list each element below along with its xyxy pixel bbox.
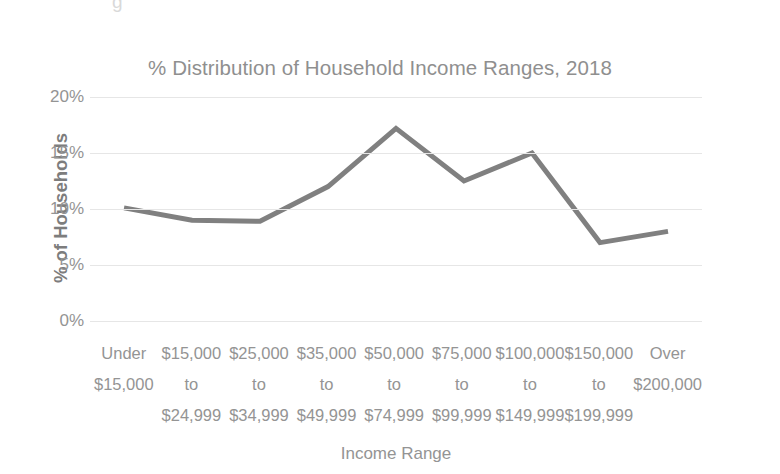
x-axis-tick-label-line: $75,000	[428, 338, 496, 369]
x-axis-title: Income Range	[90, 444, 702, 464]
x-axis-tick-label-line: to	[428, 369, 496, 400]
x-axis-tick-label-line: $149,999	[496, 400, 565, 431]
x-axis-tick-label-line: $34,999	[225, 400, 293, 431]
x-axis-tick-label: $50,000to$74,999	[360, 338, 428, 442]
x-axis-tick-label-line: $100,000	[496, 338, 565, 369]
y-axis-tick-label: 0%	[30, 311, 84, 331]
x-axis-tick-label-line: $150,000	[564, 338, 633, 369]
x-axis-tick-label-line: $49,999	[293, 400, 361, 431]
x-axis-tick-label-line: to	[360, 369, 428, 400]
gridline	[90, 209, 702, 210]
x-axis-tick-label: $100,000to$149,999	[496, 338, 565, 442]
x-axis-tick-label-line: to	[564, 369, 633, 400]
x-axis-tick-label-line: to	[293, 369, 361, 400]
x-axis-tick-label-line: $199,999	[564, 400, 633, 431]
x-axis-tick-label: Under$15,000	[90, 338, 158, 442]
x-axis-tick-label-line: $24,999	[158, 400, 226, 431]
x-axis-tick-label-line: Under	[90, 338, 158, 369]
x-axis-tick-label-line: $200,000	[633, 369, 702, 400]
x-axis-tick-label-line: $50,000	[360, 338, 428, 369]
x-axis-tick-label-line: to	[496, 369, 565, 400]
y-axis-tick-label: 5%	[30, 255, 84, 275]
y-axis-tick-label: 20%	[30, 87, 84, 107]
x-axis-tick-label-line: $25,000	[225, 338, 293, 369]
gridline	[90, 265, 702, 266]
x-axis-tick-label: $25,000to$34,999	[225, 338, 293, 442]
gridline	[90, 97, 702, 98]
x-axis-tick-label-line: $74,999	[360, 400, 428, 431]
y-axis-tick-label: 10%	[30, 199, 84, 219]
chart-title: % Distribution of Household Income Range…	[95, 56, 665, 80]
line-chart-figure: % Distribution of Household Income Range…	[0, 0, 780, 474]
x-axis-tick-labels: Under$15,000 $15,000to$24,999$25,000to$3…	[90, 338, 702, 442]
x-axis-tick-label-line: to	[225, 369, 293, 400]
gridline	[90, 153, 702, 154]
x-axis-tick-label: $150,000to$199,999	[564, 338, 633, 442]
x-axis-tick-label: $75,000to$99,999	[428, 338, 496, 442]
x-axis-tick-label: Over$200,000	[633, 338, 702, 442]
x-axis-tick-label: $35,000to$49,999	[293, 338, 361, 442]
gridline	[90, 321, 702, 322]
plot-area	[90, 97, 702, 321]
y-axis-tick-label: 15%	[30, 143, 84, 163]
x-axis-tick-label-line: $99,999	[428, 400, 496, 431]
x-axis-tick-label-line: $15,000	[158, 338, 226, 369]
x-axis-tick-label-line: $35,000	[293, 338, 361, 369]
x-axis-tick-label-line: to	[158, 369, 226, 400]
x-axis-tick-label: $15,000to$24,999	[158, 338, 226, 442]
x-axis-tick-label-line: Over	[633, 338, 702, 369]
x-axis-tick-label-line: $15,000	[90, 369, 158, 400]
y-axis-tick-labels: 20%15%10%5%0%	[22, 97, 84, 321]
